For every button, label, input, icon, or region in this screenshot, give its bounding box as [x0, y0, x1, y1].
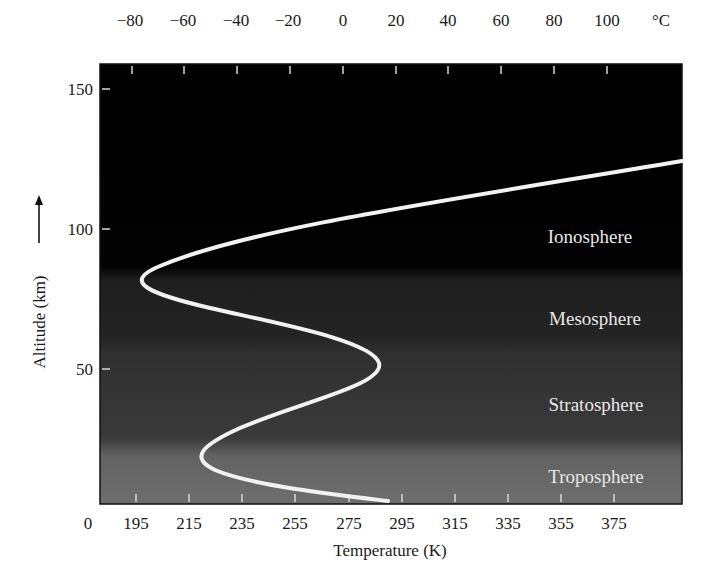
- bottom-tick-labels: 0 195 215 235 255 275 295 315 335 355 37…: [84, 514, 627, 533]
- svg-text:20: 20: [388, 11, 405, 30]
- stratosphere-label: Stratosphere: [549, 394, 644, 415]
- layer-bands: [100, 64, 682, 504]
- x-axis-title: Temperature (K): [333, 541, 447, 560]
- altitude-arrow-icon: [35, 195, 43, 243]
- svg-text:255: 255: [282, 514, 308, 533]
- svg-text:80: 80: [546, 11, 563, 30]
- svg-text:295: 295: [389, 514, 415, 533]
- svg-text:−20: −20: [275, 11, 302, 30]
- troposphere-label: Troposphere: [548, 466, 643, 487]
- y-tick-labels: 150 100 50: [68, 80, 94, 379]
- svg-text:−60: −60: [170, 11, 197, 30]
- y-axis-title: Altitude (km): [30, 275, 49, 368]
- svg-text:−80: −80: [117, 11, 144, 30]
- svg-text:375: 375: [601, 514, 627, 533]
- svg-text:150: 150: [68, 80, 94, 99]
- plot-area: [100, 64, 682, 504]
- svg-text:355: 355: [548, 514, 574, 533]
- svg-text:215: 215: [176, 514, 202, 533]
- svg-text:275: 275: [336, 514, 362, 533]
- svg-text:50: 50: [76, 360, 93, 379]
- svg-text:100: 100: [68, 220, 94, 239]
- svg-text:60: 60: [493, 11, 510, 30]
- celsius-unit: °C: [652, 11, 670, 30]
- svg-text:−40: −40: [223, 11, 250, 30]
- atmosphere-temperature-chart: Ionosphere Mesosphere Stratosphere Tropo…: [0, 0, 711, 580]
- top-tick-labels: −80 −60 −40 −20 0 20 40 60 80 100 °C: [117, 11, 670, 30]
- svg-text:195: 195: [123, 514, 149, 533]
- svg-text:0: 0: [339, 11, 348, 30]
- svg-text:40: 40: [440, 11, 457, 30]
- ionosphere-label: Ionosphere: [548, 226, 632, 247]
- mesosphere-label: Mesosphere: [549, 308, 641, 329]
- svg-text:335: 335: [495, 514, 521, 533]
- origin-label: 0: [84, 514, 93, 533]
- svg-text:100: 100: [594, 11, 620, 30]
- svg-text:315: 315: [442, 514, 468, 533]
- svg-text:235: 235: [229, 514, 255, 533]
